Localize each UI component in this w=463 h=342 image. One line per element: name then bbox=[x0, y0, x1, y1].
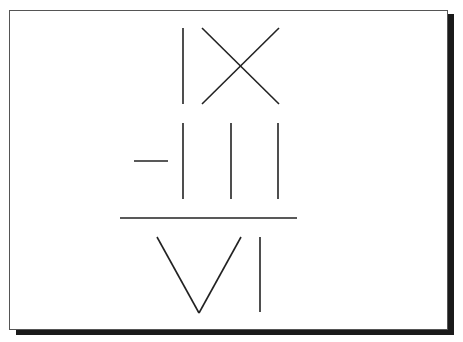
vi-v-right-stroke bbox=[199, 237, 241, 313]
denominator-vi bbox=[157, 237, 260, 313]
numerator-ix bbox=[183, 28, 279, 104]
roman-numeral-fraction bbox=[0, 0, 463, 342]
vi-v-left-stroke bbox=[157, 237, 199, 313]
numerator-minus-iii bbox=[134, 123, 278, 199]
